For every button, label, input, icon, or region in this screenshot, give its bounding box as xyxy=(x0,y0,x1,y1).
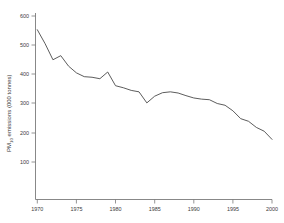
y-tick-label-600: 600 xyxy=(20,13,29,19)
x-tick-label-1980: 1980 xyxy=(110,206,122,212)
y-tick-label-100: 100 xyxy=(20,159,29,165)
y-axis-title: PM10 emissions (000 tonnes) xyxy=(6,74,14,152)
x-tick-label-1985: 1985 xyxy=(149,206,161,212)
data-series-line xyxy=(37,30,272,140)
x-tick-label-2000: 2000 xyxy=(266,206,278,212)
y-axis-title-rest: emissions (000 tonnes) xyxy=(6,74,12,138)
x-axis-ticks xyxy=(37,200,272,204)
y-axis-tick-labels: 600 500 400 300 200 100 xyxy=(20,13,29,165)
x-tick-label-1970: 1970 xyxy=(31,206,43,212)
x-tick-label-1995: 1995 xyxy=(227,206,239,212)
chart-container: PM10 emissions (000 tonnes) 600 500 400 … xyxy=(0,0,284,223)
y-tick-label-200: 200 xyxy=(20,130,29,136)
x-axis-tick-labels: 1970 1975 1980 1985 1990 1995 2000 xyxy=(31,206,278,212)
y-axis-title-main: PM xyxy=(6,143,12,152)
y-tick-label-500: 500 xyxy=(20,42,29,48)
y-tick-label-400: 400 xyxy=(20,71,29,77)
line-chart: PM10 emissions (000 tonnes) 600 500 400 … xyxy=(0,0,284,223)
x-tick-label-1990: 1990 xyxy=(188,206,200,212)
x-tick-label-1975: 1975 xyxy=(70,206,82,212)
y-tick-label-300: 300 xyxy=(20,100,29,106)
y-axis-ticks xyxy=(32,16,36,162)
svg-text:PM10 emissions (000 tonnes): PM10 emissions (000 tonnes) xyxy=(6,74,14,152)
